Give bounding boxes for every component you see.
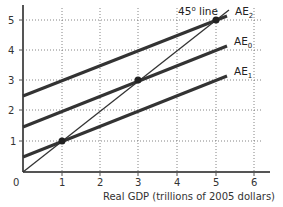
label-ae0: AE0 [234,35,252,50]
x-tick-4: 4 [174,177,180,188]
label-45-line: 45o line [178,5,218,17]
x-tick-1: 1 [59,177,65,188]
equilibrium-point-5 [213,17,220,24]
line-45-degree [23,10,229,172]
y-tick-2: 2 [8,105,14,116]
x-tick-2: 2 [97,177,103,188]
y-tick-4: 4 [8,45,14,56]
y-tick-1: 1 [10,136,16,147]
x-tick-5: 5 [213,177,219,188]
tick-marks [19,20,254,176]
x-tick-6: 6 [251,177,257,188]
x-axis-title: Real GDP (trillions of 2005 dollars) [103,191,275,202]
line-ae0 [23,46,227,127]
y-tick-5: 5 [8,15,14,26]
x-tick-3: 3 [135,177,141,188]
line-ae2 [23,16,227,96]
equilibrium-point-1 [59,138,66,145]
grid [23,8,262,172]
ae-chart: 5 4 3 2 1 0 1 2 3 4 5 6 Real GDP (trilli… [0,0,283,207]
origin-label: 0 [13,177,19,188]
equilibrium-point-3 [135,77,142,84]
line-ae1 [23,76,227,157]
label-ae2: AE2 [235,5,253,20]
y-tick-3: 3 [8,75,14,86]
label-ae1: AE1 [234,65,252,80]
